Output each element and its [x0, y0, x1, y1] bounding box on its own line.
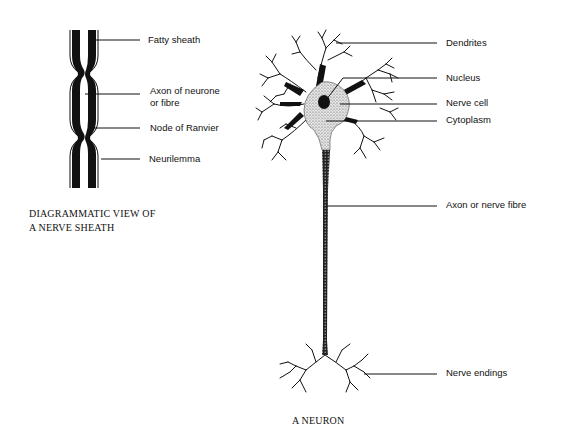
neuron-drawing [256, 30, 437, 392]
diagram-canvas: Fatty sheath Axon of neurone or fibre No… [0, 0, 566, 435]
label-dendrites: Dendrites [446, 37, 487, 49]
label-or-fibre: or fibre [150, 97, 180, 109]
label-axon-of-neurone: Axon of neurone [150, 85, 220, 97]
label-axon-or-nerve-fibre: Axon or nerve fibre [446, 199, 526, 211]
nerve-sheath-drawing [70, 30, 140, 188]
caption-neuron: A NEURON [292, 414, 344, 428]
label-node-of-ranvier: Node of Ranvier [150, 122, 219, 134]
label-nerve-cell: Nerve cell [446, 97, 488, 109]
label-nucleus: Nucleus [446, 72, 480, 84]
axon [322, 150, 330, 355]
label-cytoplasm: Cytoplasm [446, 114, 491, 126]
label-fatty-sheath: Fatty sheath [148, 34, 200, 46]
fatty-sheath-left [72, 30, 85, 188]
cell-body [304, 82, 349, 150]
fatty-sheath-right [85, 30, 96, 188]
label-neurilemma: Neurilemma [149, 153, 200, 165]
label-nerve-endings: Nerve endings [446, 367, 507, 379]
caption-sheath-line1: DIAGRAMMATIC VIEW OF [29, 207, 155, 221]
caption-sheath-line2: A NERVE SHEATH [29, 221, 114, 235]
